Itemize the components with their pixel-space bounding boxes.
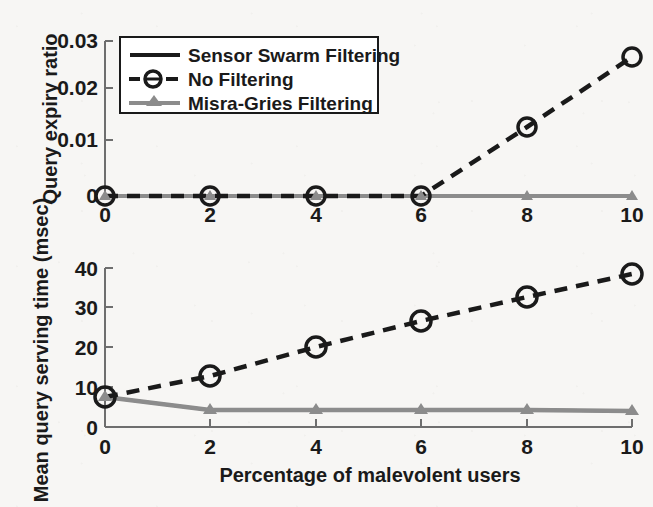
lower-series-no-filtering [105, 274, 632, 397]
two-panel-chart-svg: 0.03 0.02 0.01 0 Query expiry ratio [0, 0, 653, 507]
legend-label-misra-gries: Misra-Gries Filtering [188, 93, 373, 114]
upper-ytick-1: 0.02 [57, 76, 98, 99]
lower-ytick-20: 20 [75, 336, 98, 359]
lower-x-axis-title: Percentage of malevolent users [219, 464, 520, 486]
lower-xtick-3: 6 [415, 435, 427, 458]
upper-xtick-0: 0 [99, 203, 111, 226]
lower-ytick-40: 40 [75, 257, 98, 280]
lower-xtick-5: 10 [620, 435, 643, 458]
lower-ytick-30: 30 [75, 296, 98, 319]
lower-ytick-0: 0 [86, 416, 98, 439]
lower-x-axis [105, 419, 632, 427]
lower-xtick-0: 0 [99, 435, 111, 458]
legend-label-no-filtering: No Filtering [188, 69, 294, 90]
lower-y-axis-title: Mean query serving time (msec) [30, 198, 52, 503]
upper-y-axis [105, 41, 113, 196]
upper-xtick-4: 8 [521, 203, 533, 226]
lower-xtick-1: 2 [204, 435, 216, 458]
legend-label-sensor-swarm: Sensor Swarm Filtering [188, 45, 400, 66]
upper-xtick-2: 4 [310, 203, 322, 226]
lower-xtick-4: 8 [521, 435, 533, 458]
upper-ytick-0: 0.03 [57, 29, 98, 52]
upper-y-axis-title: Query expiry ratio [39, 33, 61, 204]
legend[interactable]: Sensor Swarm Filtering No Filtering Misr… [120, 37, 400, 114]
lower-series-misra-gries [105, 397, 632, 411]
figure-canvas: 0.03 0.02 0.01 0 Query expiry ratio [0, 0, 653, 507]
lower-xtick-2: 4 [310, 435, 322, 458]
upper-xtick-3: 6 [415, 203, 427, 226]
upper-xtick-5: 10 [620, 203, 643, 226]
upper-xtick-1: 2 [204, 203, 216, 226]
upper-ytick-2: 0.01 [57, 128, 98, 151]
legend-item-no-filtering[interactable]: No Filtering [129, 69, 294, 90]
lower-panel: 40 30 20 10 0 Mean query serving time (m… [30, 198, 644, 503]
